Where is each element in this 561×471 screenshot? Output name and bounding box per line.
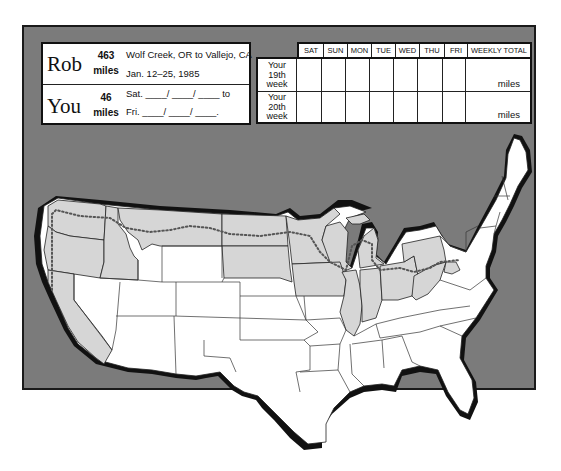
row-label-line: Your <box>268 60 286 70</box>
rob-miles-value: 463 <box>91 50 121 61</box>
col-header-tue: TUE <box>372 44 396 57</box>
cell-week19-thu[interactable] <box>418 59 443 91</box>
rob-row: Rob 463 miles Wolf Creek, OR to Vallejo,… <box>43 44 249 85</box>
cell-week20-wed[interactable] <box>394 91 418 122</box>
cell-week20-total[interactable]: miles <box>466 91 530 122</box>
weekly-log-table: SAT SUN MON TUE WED THU FRI WEEKLY TOTAL… <box>256 42 532 124</box>
cell-week20-sun[interactable] <box>322 91 346 122</box>
cell-week20-mon[interactable] <box>346 91 370 122</box>
runner-name-rob: Rob <box>47 52 82 77</box>
mileage-info-box: Rob 463 miles Wolf Creek, OR to Vallejo,… <box>41 42 251 125</box>
cell-week20-fri[interactable] <box>443 91 466 122</box>
col-header-sun: SUN <box>324 44 348 57</box>
cell-week19-sun[interactable] <box>322 59 346 91</box>
table-row: Your 19th week miles <box>258 59 530 92</box>
row-label-week-20: Your 20th week <box>258 91 297 122</box>
cell-week19-fri[interactable] <box>443 59 466 91</box>
table-body: Your 19th week miles Your 20th week <box>256 57 532 124</box>
rob-route: Wolf Creek, OR to Vallejo, CA <box>126 49 252 60</box>
us-land <box>40 138 528 444</box>
total-unit: miles <box>498 109 520 120</box>
you-miles-unit: miles <box>91 107 121 118</box>
col-header-sat: SAT <box>299 44 324 57</box>
row-label-line: week <box>266 79 287 89</box>
rob-miles: 463 miles <box>91 50 121 76</box>
col-header-wed: WED <box>396 44 420 57</box>
you-row: You 46 miles Sat. ____/ ____/ ____ to Fr… <box>43 84 249 124</box>
you-miles: 46 miles <box>91 92 121 118</box>
cell-week20-sat[interactable] <box>297 91 322 122</box>
row-label-line: 20th <box>268 102 286 112</box>
cell-week19-total[interactable]: miles <box>466 59 530 91</box>
row-label-line: Your <box>268 92 286 102</box>
row-label-line: week <box>266 111 287 121</box>
cell-week19-sat[interactable] <box>297 59 322 91</box>
row-label-week-19: Your 19th week <box>258 59 297 91</box>
cell-week19-tue[interactable] <box>370 59 394 91</box>
cell-week19-mon[interactable] <box>346 59 370 91</box>
runner-name-you: You <box>47 94 81 119</box>
col-header-weekly-total: WEEKLY TOTAL <box>468 44 530 57</box>
cell-week20-thu[interactable] <box>418 91 443 122</box>
cell-week19-wed[interactable] <box>394 59 418 91</box>
table-row: Your 20th week miles <box>258 91 530 122</box>
row-label-line: 19th <box>268 70 286 80</box>
total-unit: miles <box>498 78 520 89</box>
you-start-date-line[interactable]: Sat. ____/ ____/ ____ to <box>126 88 230 99</box>
rob-dates: Jan. 12–25, 1985 <box>126 68 199 79</box>
col-header-fri: FRI <box>445 44 468 57</box>
you-end-date-line[interactable]: Fri. ____/ ____/ ____. <box>126 106 219 117</box>
you-miles-value: 46 <box>91 92 121 103</box>
col-header-mon: MON <box>348 44 372 57</box>
rob-miles-unit: miles <box>91 65 121 76</box>
cell-week20-tue[interactable] <box>370 91 394 122</box>
col-header-thu: THU <box>420 44 445 57</box>
